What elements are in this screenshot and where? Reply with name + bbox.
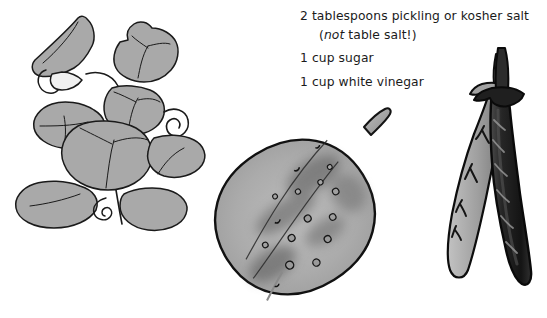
cucumber-illustration [193, 105, 398, 310]
plant-leaf-upper-right [114, 22, 178, 82]
peppers-illustration [448, 44, 547, 309]
plant-leaf-upper-left [32, 16, 94, 76]
ingredient-note-suffix: table salt!) [344, 28, 416, 42]
plant-leaf-bottom-left [16, 181, 98, 228]
plant-tendril-ring [164, 109, 188, 136]
recipe-page: Pour the mixture: 2 tablespoons pickling… [0, 0, 547, 318]
ingredient-note-salt: (not table salt!) [300, 28, 540, 42]
ingredient-item-salt: 2 tablespoons pickling or kosher salt [300, 9, 540, 23]
cucumber-plant-illustration [8, 8, 213, 223]
plant-flower-bud [50, 72, 82, 90]
cucumber-stem [364, 108, 391, 135]
ingredient-note-emphasis: not [324, 28, 344, 42]
pepper-dark-stem [496, 48, 509, 90]
plant-leaf-bottom-right [120, 188, 187, 230]
